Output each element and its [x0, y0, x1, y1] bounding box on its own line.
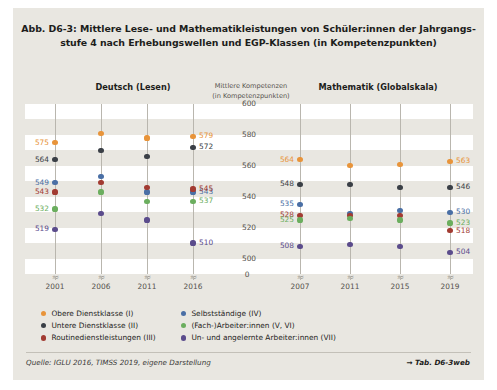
data-point[interactable] [447, 228, 452, 233]
legend-item-label: (Fach-)Arbeiter:innen (V, VI) [191, 321, 294, 330]
x-axis-tick [300, 276, 301, 280]
x-axis-tick-label: 2016 [173, 282, 213, 291]
data-point[interactable] [347, 216, 352, 221]
data-point-label: 579 [199, 131, 213, 140]
data-point-label: 523 [456, 218, 470, 227]
data-point[interactable] [52, 157, 57, 162]
data-point[interactable] [397, 185, 402, 190]
data-point[interactable] [190, 199, 195, 204]
y-axis-tick-label: 520 [227, 223, 271, 232]
legend-item-label: Untere Dienstklasse (II) [51, 321, 138, 330]
data-point-label: 563 [456, 156, 470, 165]
panel-header-deutsch: Deutsch (Lesen) [68, 82, 198, 92]
data-point[interactable] [98, 189, 103, 194]
x-axis-tick-label: 2007 [280, 282, 320, 291]
data-point[interactable] [52, 206, 57, 211]
legend-item-label: Un- und angelernte Arbeiter:innen (VII) [191, 333, 335, 342]
data-point[interactable] [52, 180, 57, 185]
data-point[interactable] [190, 145, 195, 150]
data-point[interactable] [144, 185, 149, 190]
data-point[interactable] [190, 134, 195, 139]
legend-swatch-icon [41, 335, 46, 340]
legend-item-label: Selbstständige (IV) [191, 309, 261, 318]
data-point[interactable] [98, 148, 103, 153]
legend-item[interactable]: Routinedienstleistungen (III) [41, 332, 156, 344]
x-axis-tick [55, 276, 56, 280]
data-point[interactable] [144, 135, 149, 140]
legend-item[interactable]: Un- und angelernte Arbeiter:innen (VII) [181, 332, 336, 344]
title-line-1: Abb. D6-3: Mittlere Lese- und Mathematik… [13, 22, 484, 36]
x-axis-tick-label: 2019 [430, 282, 470, 291]
legend-item[interactable]: Selbstständige (IV) [181, 307, 336, 319]
data-point-label: 546 [456, 182, 470, 191]
data-point-label: 572 [199, 142, 213, 151]
data-point-label: 530 [456, 207, 470, 216]
legend-swatch-icon [181, 311, 186, 316]
x-axis-tick [350, 276, 351, 280]
y-axis-tick-label: 600 [227, 99, 271, 108]
data-point[interactable] [297, 244, 302, 249]
data-point[interactable] [297, 157, 302, 162]
data-point-label: 575 [15, 138, 49, 147]
legend-item[interactable]: Untere Dienstklasse (II) [41, 319, 156, 331]
data-point[interactable] [447, 210, 452, 215]
x-axis-tick [193, 276, 194, 280]
y-axis-tick-label: 580 [227, 130, 271, 139]
x-axis-tick-label: 2001 [35, 282, 75, 291]
data-point[interactable] [52, 189, 57, 194]
table-reference-link[interactable]: → Tab. D6-3web [407, 358, 470, 367]
data-point-label: 518 [456, 226, 470, 235]
data-point[interactable] [297, 202, 302, 207]
data-point[interactable] [297, 182, 302, 187]
legend-item[interactable]: (Fach-)Arbeiter:innen (V, VI) [181, 319, 336, 331]
x-axis-tick [101, 276, 102, 280]
x-axis-tick-label: 2006 [81, 282, 121, 291]
data-point-label: 549 [15, 178, 49, 187]
x-axis-tick-label: 2011 [127, 282, 167, 291]
x-axis-tick [450, 276, 451, 280]
data-point[interactable] [447, 159, 452, 164]
x-axis: 20012006201120162007201120152019 [25, 276, 473, 298]
data-point[interactable] [98, 174, 103, 179]
data-point[interactable] [397, 244, 402, 249]
legend: Obere Dienstklasse (I)Untere Dienstklass… [41, 307, 461, 347]
figure-d6-3: Abb. D6-3: Mittlere Lese- und Mathematik… [13, 8, 484, 380]
data-point[interactable] [297, 217, 302, 222]
data-point[interactable] [347, 182, 352, 187]
data-point[interactable] [144, 199, 149, 204]
data-point-label: 564 [15, 155, 49, 164]
legend-item-label: Obere Dienstklasse (I) [51, 309, 133, 318]
y-axis-tick-label: 560 [227, 161, 271, 170]
legend-column-a: Obere Dienstklasse (I)Untere Dienstklass… [41, 307, 156, 344]
data-point[interactable] [52, 140, 57, 145]
data-point[interactable] [190, 240, 195, 245]
data-point-label: 532 [15, 204, 49, 213]
data-point-label: 537 [199, 196, 213, 205]
axis-header-line-1: Mittlere Kompetenzen [201, 82, 301, 92]
x-axis-tick [400, 276, 401, 280]
data-point[interactable] [144, 189, 149, 194]
legend-swatch-icon [41, 323, 46, 328]
data-point-label: 543 [15, 187, 49, 196]
data-point[interactable] [98, 211, 103, 216]
data-point[interactable] [144, 154, 149, 159]
legend-item-label: Routinedienstleistungen (III) [51, 333, 155, 342]
data-point[interactable] [144, 217, 149, 222]
y-axis-tick-label: 500 [227, 254, 271, 263]
data-point[interactable] [190, 186, 195, 191]
data-point[interactable] [447, 250, 452, 255]
legend-swatch-icon [41, 311, 46, 316]
data-point[interactable] [98, 131, 103, 136]
data-point[interactable] [447, 220, 452, 225]
data-point[interactable] [397, 217, 402, 222]
data-point[interactable] [397, 162, 402, 167]
x-axis-tick-label: 2011 [330, 282, 370, 291]
data-point[interactable] [52, 227, 57, 232]
title-line-2: stufe 4 nach Erhebungswellen und EGP-Kla… [13, 36, 484, 50]
data-point[interactable] [447, 185, 452, 190]
data-point[interactable] [347, 242, 352, 247]
data-point-label: 519 [15, 224, 49, 233]
legend-item[interactable]: Obere Dienstklasse (I) [41, 307, 156, 319]
data-point[interactable] [347, 163, 352, 168]
data-point[interactable] [98, 180, 103, 185]
